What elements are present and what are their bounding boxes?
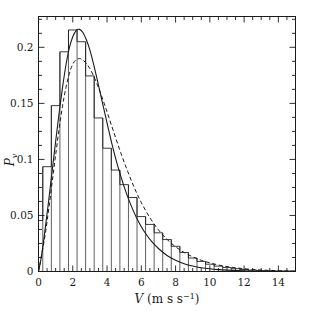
x-tick-label: 12 <box>237 276 250 288</box>
x-tick-label: 0 <box>35 276 42 288</box>
x-tick-label: 4 <box>104 276 111 288</box>
y-tick-label: 0 <box>27 265 34 277</box>
y-tick-label: 0.1 <box>17 153 34 165</box>
chart-background <box>0 0 314 311</box>
x-tick-label: 6 <box>138 276 145 288</box>
x-tick-label: 8 <box>172 276 179 288</box>
probability-density-chart: 02468101214 00.050.10.150.2 V (m s s−1) … <box>0 0 314 311</box>
figure-container: 02468101214 00.050.10.150.2 V (m s s−1) … <box>0 0 314 311</box>
x-tick-label: 10 <box>203 276 216 288</box>
y-tick-label: 0.05 <box>10 209 33 221</box>
y-tick-label: 0.2 <box>17 41 34 53</box>
x-tick-label: 2 <box>69 276 76 288</box>
y-tick-label: 0.15 <box>10 97 33 109</box>
x-tick-label: 14 <box>272 276 286 288</box>
